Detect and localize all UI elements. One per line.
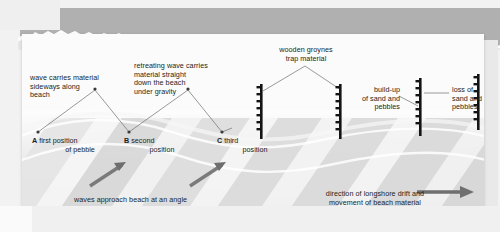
label-wooden-groynes: wooden groynes trap material bbox=[263, 46, 349, 63]
groyne-3 bbox=[416, 78, 422, 136]
position-key-a: A bbox=[32, 136, 37, 145]
position-label-c: C third position bbox=[217, 137, 287, 155]
position-key-c: C bbox=[217, 136, 222, 145]
label-loss-of: loss of sand and pebbles bbox=[452, 86, 500, 112]
position-text-line2: position bbox=[217, 146, 287, 155]
position-text-c: third bbox=[224, 136, 238, 145]
label-longshore-direction: direction of longshore drift and movemen… bbox=[300, 190, 450, 207]
label-wave-carries-material: wave carries material sideways along bea… bbox=[30, 74, 140, 100]
position-text-b: second bbox=[131, 136, 154, 145]
position-key-b: B bbox=[124, 136, 129, 145]
label-build-up: build-up of sand and pebbles bbox=[348, 86, 400, 112]
label-waves-approach: waves approach beach at an angle bbox=[74, 196, 254, 205]
groyne-2 bbox=[336, 84, 342, 139]
label-retreating-wave: retreating wave carries material straigh… bbox=[134, 62, 239, 96]
position-text-line2: of pebble bbox=[32, 146, 122, 155]
position-text-a: first position bbox=[39, 136, 77, 145]
position-label-a: A first position of pebble bbox=[32, 137, 122, 155]
groyne-1 bbox=[257, 84, 263, 139]
diagram-canvas: wave carries material sideways along bea… bbox=[0, 0, 500, 232]
position-text-line2: position bbox=[124, 146, 194, 155]
position-label-b: B second position bbox=[124, 137, 194, 155]
